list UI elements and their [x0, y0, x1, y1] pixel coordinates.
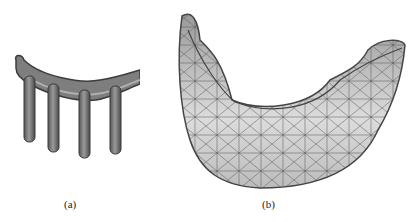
- panel-a-implant-bar-figure: [0, 40, 140, 190]
- panel-b-label: (b): [262, 198, 275, 210]
- panel-b-mesh-figure: [140, 0, 415, 200]
- panel-a-label: (a): [64, 198, 76, 210]
